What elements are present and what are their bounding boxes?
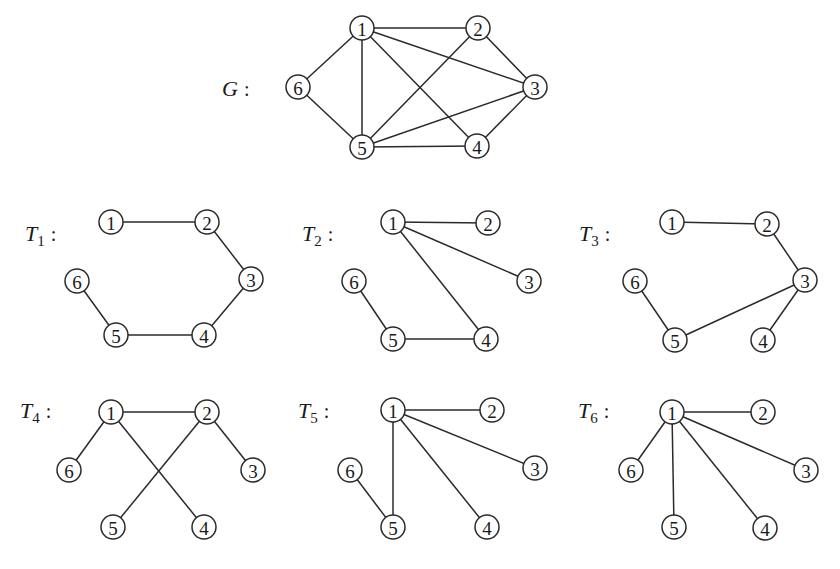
node-label: 5 [670, 331, 680, 352]
edges [298, 28, 535, 147]
node-label: 3 [530, 459, 540, 480]
graph-label-colon: : [605, 223, 611, 245]
node-label: 4 [199, 326, 209, 347]
nodes: 123456 [57, 400, 265, 539]
edge-1-4 [672, 412, 765, 528]
node-label: 5 [111, 326, 121, 347]
graph-label-colon: : [324, 400, 330, 422]
nodes: 123456 [286, 16, 547, 159]
graph-label-subscript: 4 [32, 410, 40, 426]
node-label: 4 [760, 519, 770, 540]
node-label: 5 [388, 518, 398, 539]
graph-label-subscript: 1 [37, 233, 45, 249]
node-6: 6 [619, 458, 643, 482]
edge-1-4 [393, 410, 487, 527]
edge-4-5 [362, 146, 477, 147]
graph-t6: T6:123456 [578, 398, 818, 540]
node-3: 3 [793, 268, 817, 292]
edge-1-5 [672, 412, 674, 527]
graph-label-g: G: [222, 76, 249, 101]
edge-1-4 [393, 222, 486, 339]
node-label: 3 [801, 461, 811, 482]
node-1: 1 [660, 400, 684, 424]
node-3: 3 [517, 269, 541, 293]
node-3: 3 [523, 75, 547, 99]
graph-label-colon: : [328, 223, 334, 245]
node-label: 6 [72, 272, 82, 293]
graph-label-subscript: 2 [314, 233, 322, 249]
node-4: 4 [753, 516, 777, 540]
node-6: 6 [338, 458, 362, 482]
node-label: 6 [626, 461, 636, 482]
edge-2-5 [113, 412, 207, 527]
node-label: 5 [669, 518, 679, 539]
node-label: 4 [472, 137, 482, 158]
node-label: 4 [758, 331, 768, 352]
node-1: 1 [381, 398, 405, 422]
node-label: 2 [487, 401, 497, 422]
node-label: 2 [202, 403, 212, 424]
edges [635, 222, 805, 340]
node-label: 6 [293, 78, 303, 99]
node-label: 4 [199, 518, 209, 539]
edge-1-4 [111, 412, 204, 527]
graph-t2: T2:123456 [302, 210, 541, 351]
graph-label-colon: : [604, 400, 610, 422]
node-3: 3 [241, 458, 265, 482]
node-1: 1 [350, 16, 374, 40]
graph-diagram-canvas: G:123456T1:123456T2:123456T3:123456T4:12… [0, 0, 840, 569]
node-1: 1 [99, 210, 123, 234]
graph-label-subscript: 3 [591, 233, 599, 249]
edges [354, 222, 529, 339]
node-label: 5 [388, 330, 398, 351]
edges [69, 412, 253, 527]
graph-label-t3: T3: [579, 221, 610, 249]
node-5: 5 [381, 515, 405, 539]
node-4: 4 [465, 134, 489, 158]
node-label: 4 [482, 518, 492, 539]
node-5: 5 [662, 515, 686, 539]
node-label: 1 [667, 403, 677, 424]
graph-t1: T1:123456 [25, 210, 263, 347]
edge-5-6 [298, 87, 362, 147]
edge-1-2 [393, 222, 488, 223]
node-label: 1 [388, 213, 398, 234]
node-label: 3 [800, 271, 810, 292]
nodes: 123456 [338, 398, 547, 539]
nodes: 123456 [342, 210, 541, 351]
node-1: 1 [381, 210, 405, 234]
edge-1-3 [393, 222, 529, 281]
node-label: 3 [530, 78, 540, 99]
node-4: 4 [192, 323, 216, 347]
graph-t5: T5:123456 [298, 398, 547, 539]
graph-t4: T4:123456 [20, 398, 265, 539]
graph-g: G:123456 [222, 16, 547, 159]
nodes: 123456 [65, 210, 263, 347]
node-label: 1 [388, 401, 398, 422]
node-label: 2 [473, 19, 483, 40]
node-2: 2 [480, 398, 504, 422]
node-4: 4 [474, 327, 498, 351]
edge-3-5 [362, 87, 535, 147]
node-5: 5 [663, 328, 687, 352]
graph-label-subscript: 6 [590, 410, 598, 426]
edge-1-3 [672, 412, 806, 470]
edge-1-2 [672, 222, 767, 224]
node-label: 6 [345, 461, 355, 482]
node-label: 1 [106, 403, 116, 424]
graph-label-letter: G [222, 76, 238, 101]
node-label: 6 [64, 461, 74, 482]
graph-label-t4: T4: [20, 398, 51, 426]
node-label: 2 [758, 403, 768, 424]
edges [350, 410, 535, 527]
node-6: 6 [57, 458, 81, 482]
edges [77, 222, 251, 335]
node-label: 3 [524, 272, 534, 293]
edges [631, 412, 806, 528]
node-label: 1 [357, 19, 367, 40]
node-label: 6 [349, 272, 359, 293]
node-4: 4 [192, 515, 216, 539]
node-label: 4 [481, 330, 491, 351]
edge-1-3 [393, 410, 535, 468]
node-label: 1 [106, 213, 116, 234]
